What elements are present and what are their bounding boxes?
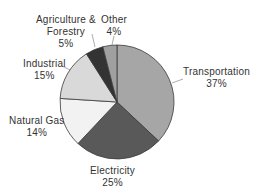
label-industrial-pct: 15% bbox=[23, 70, 66, 82]
label-electricity: Electricity 25% bbox=[90, 165, 135, 189]
label-electricity-name: Electricity bbox=[90, 165, 135, 177]
label-transportation: Transportation 37% bbox=[183, 66, 250, 90]
label-electricity-pct: 25% bbox=[90, 177, 135, 189]
label-other-name: Other bbox=[101, 14, 127, 26]
label-natural-gas: Natural Gas 14% bbox=[9, 115, 65, 139]
label-agriculture-forestry: Agriculture & Forestry 5% bbox=[36, 14, 96, 50]
label-other-pct: 4% bbox=[101, 26, 127, 38]
label-transportation-name: Transportation bbox=[183, 66, 250, 78]
leader-line bbox=[172, 79, 183, 83]
label-agriculture-name-line1: Agriculture & bbox=[36, 14, 96, 26]
label-transportation-pct: 37% bbox=[183, 78, 250, 90]
label-natural-gas-pct: 14% bbox=[9, 127, 65, 139]
label-industrial-name: Industrial bbox=[23, 58, 66, 70]
label-agriculture-pct: 5% bbox=[36, 38, 96, 50]
label-industrial: Industrial 15% bbox=[23, 58, 66, 82]
label-agriculture-name-line2: Forestry bbox=[36, 26, 96, 38]
label-other: Other 4% bbox=[101, 14, 127, 38]
label-natural-gas-name: Natural Gas bbox=[9, 115, 65, 127]
